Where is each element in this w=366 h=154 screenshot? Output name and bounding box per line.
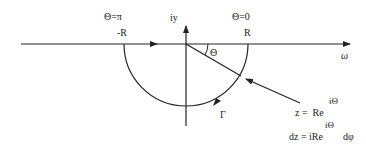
r-label: R (244, 27, 251, 38)
theta-angle-label: Θ (210, 47, 217, 58)
z-exponent: iΘ (329, 96, 339, 106)
angle-arc (205, 44, 208, 55)
real-axis-label: ω (341, 50, 348, 61)
contour-diagram: Θ=π -R iy Θ=0 R Θ ω Γ z = Re iΘ dz = iRe… (0, 0, 366, 154)
dz-equation: dz = iRe (289, 131, 324, 142)
z-equation: z = Re (295, 107, 324, 118)
theta-pi-label: Θ=π (104, 11, 122, 22)
real-axis-direction-arrow-icon (150, 41, 158, 47)
imag-axis-label: iy (170, 12, 178, 23)
dz-tail: dφ (343, 131, 354, 142)
pointer-arrow (246, 79, 300, 103)
gamma-label: Γ (220, 109, 226, 120)
dz-exponent: iΘ (325, 120, 335, 130)
theta-zero-label: Θ=0 (232, 11, 250, 22)
minus-r-label: -R (117, 27, 127, 38)
